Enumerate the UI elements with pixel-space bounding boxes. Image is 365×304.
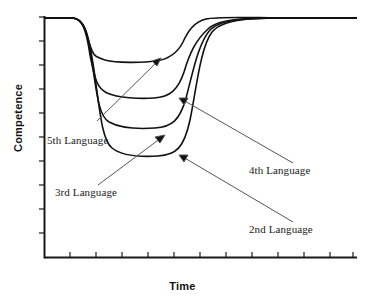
annotation-label-3rd-language: 3rd Language [55, 186, 117, 198]
annotation-label-2nd-language: 2nd Language [249, 223, 313, 235]
annotation-label-4th-language: 4th Language [249, 164, 310, 176]
chart-plot-area [0, 0, 365, 304]
y-axis-title: Competence [12, 70, 24, 166]
annotation-label-5th-language: 5th Language [47, 134, 108, 146]
curve-3rd-language [45, 18, 357, 128]
annotation-arrows [97, 58, 293, 222]
x-axis-title: Time [0, 280, 365, 292]
arrow-4th-language [179, 98, 293, 163]
chart-figure: 5th Language 3rd Language 4th Language 2… [0, 0, 365, 304]
arrow-5th-language [97, 58, 161, 121]
